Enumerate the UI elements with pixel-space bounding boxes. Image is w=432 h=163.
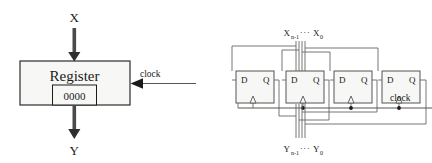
- input-bus-x-high: X: [284, 28, 291, 38]
- input-bus-dots: ···: [300, 27, 311, 37]
- output-bus-dots: ···: [300, 143, 311, 153]
- ff4-q-label: Q: [409, 75, 416, 85]
- figure-root: X Register 0000 clock Y X: [0, 0, 432, 163]
- label-x-input: X: [70, 10, 80, 25]
- ff3-d-label: D: [339, 75, 346, 85]
- label-y-output: Y: [70, 143, 80, 158]
- output-bus-label: Y n-1 ··· Y 0: [284, 143, 324, 156]
- clock-input-arrow-left: [131, 78, 197, 88]
- register-box-label: Register: [50, 68, 100, 84]
- ff2-d-label: D: [291, 75, 298, 85]
- clock-bus: [238, 103, 432, 110]
- right-dff-diagram: X n-1 ··· X 0: [232, 27, 432, 156]
- input-bus-x-low: X: [313, 28, 320, 38]
- output-bus-y-low: Y: [313, 144, 320, 154]
- output-bus-y-high-sub: n-1: [291, 150, 299, 156]
- stored-value-label: 0000: [64, 90, 87, 102]
- output-bus-y-low-sub: 0: [320, 150, 323, 156]
- output-arrow-y: [68, 105, 80, 139]
- input-bus-x-low-sub: 0: [320, 34, 323, 40]
- input-bus-label: X n-1 ··· X 0: [284, 27, 324, 40]
- ff2-q-label: Q: [313, 75, 320, 85]
- d-flipflop-3: D Q: [330, 71, 377, 103]
- clock-junction-dot-3: [349, 106, 353, 110]
- d-flipflop-1: D Q: [232, 71, 279, 103]
- ff1-q-label: Q: [263, 75, 270, 85]
- clock-label-right: clock: [390, 93, 411, 103]
- input-arrow-x: [68, 28, 80, 62]
- ff1-d-label: D: [241, 75, 248, 85]
- clock-label-left: clock: [140, 69, 161, 79]
- left-register-diagram: X Register 0000 clock Y: [20, 10, 196, 158]
- d-flipflop-2: D Q: [282, 71, 329, 103]
- figure-canvas: X Register 0000 clock Y X: [0, 0, 432, 163]
- output-bus-y-high: Y: [284, 144, 291, 154]
- clock-junction-dot-4: [397, 106, 401, 110]
- ff3-q-label: Q: [361, 75, 368, 85]
- input-bus-x-high-sub: n-1: [291, 34, 299, 40]
- ff4-d-label: D: [387, 75, 394, 85]
